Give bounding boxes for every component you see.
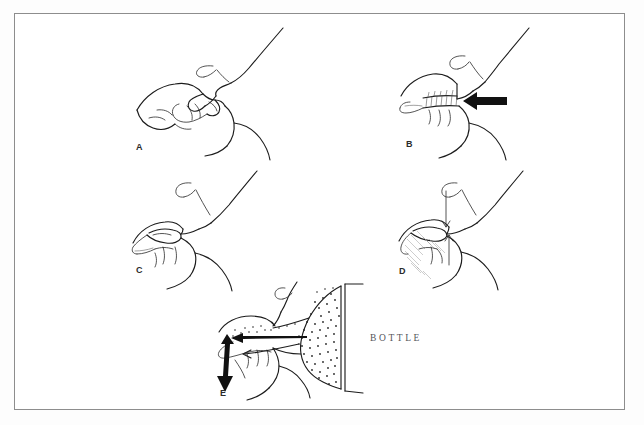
panel-label-e: E — [220, 389, 226, 398]
bottle-caption: BOTTLE — [370, 334, 422, 344]
figure-root: A — [0, 0, 644, 425]
figure-frame: A — [14, 13, 625, 410]
jaw-excursion-arrow-e — [217, 334, 234, 392]
panel-label-c: C — [136, 266, 143, 275]
suction-arrow-lower — [445, 235, 453, 265]
compression-arrow-b — [463, 92, 507, 110]
panel-b — [399, 26, 579, 161]
flow-arrow-e — [231, 333, 307, 343]
panel-label-b: B — [406, 140, 413, 149]
panel-a — [131, 26, 301, 161]
panel-label-a: A — [136, 143, 143, 152]
